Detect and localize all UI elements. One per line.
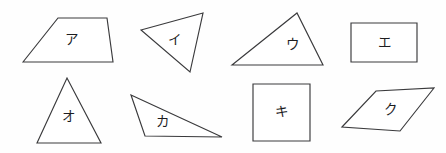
shape-label-i: イ [168, 31, 181, 47]
shape-group-e[interactable]: エ [351, 23, 417, 62]
shape-label-ka: カ [156, 113, 169, 129]
geometry-figure-sheet: ア イ ウ エ オ カ キ ク [0, 0, 446, 153]
shape-label-u: ウ [286, 36, 299, 52]
shape-group-ku[interactable]: ク [342, 88, 434, 131]
shape-group-u[interactable]: ウ [232, 13, 323, 65]
triangle-shape-u[interactable] [232, 13, 323, 65]
shape-label-ki: キ [275, 103, 288, 119]
shape-group-i[interactable]: イ [141, 13, 203, 72]
shape-canvas: ア イ ウ エ オ カ キ ク [0, 0, 446, 153]
shape-group-a[interactable]: ア [23, 18, 113, 62]
shape-group-o[interactable]: オ [37, 78, 101, 143]
triangle-shape-ka[interactable] [131, 95, 222, 137]
shape-group-ki[interactable]: キ [253, 84, 310, 141]
shape-label-ku: ク [384, 101, 397, 117]
shape-group-ka[interactable]: カ [131, 95, 222, 137]
shape-label-e: エ [378, 34, 391, 50]
shape-label-o: オ [62, 108, 75, 124]
shape-label-a: ア [65, 31, 78, 47]
